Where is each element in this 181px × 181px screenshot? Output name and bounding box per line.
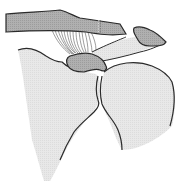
shoulder-diagram bbox=[0, 0, 181, 181]
coracoclavicular-ligaments bbox=[52, 30, 96, 54]
humeral-head bbox=[102, 63, 175, 150]
clavicle bbox=[6, 10, 126, 35]
diagram-canvas bbox=[0, 0, 181, 181]
